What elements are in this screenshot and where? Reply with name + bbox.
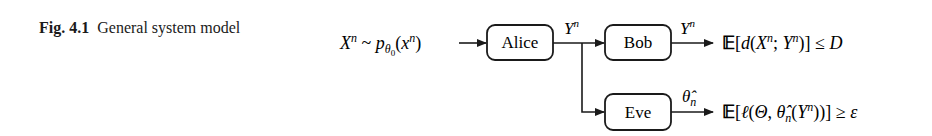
eve-node: Eve — [605, 94, 671, 130]
system-model-diagram: Xn ~ pθ0(xn) Alice Yn Bob Yn 𝔼[d(Xn; Yn)… — [0, 0, 932, 136]
eve-output-label: θ̂n — [682, 87, 697, 109]
bob-label: Bob — [624, 33, 652, 52]
input-distribution: Xn ~ pθ0(xn) — [339, 31, 421, 58]
eve-label: Eve — [625, 103, 651, 122]
svg-text:Xn ~ pθ0(xn): Xn ~ pθ0(xn) — [339, 31, 421, 58]
alice-to-eve-arrow — [582, 43, 604, 112]
alice-output-label: Yn — [564, 17, 579, 38]
alice-node: Alice — [487, 25, 553, 60]
bob-output-label: Yn — [680, 17, 695, 38]
distortion-constraint: 𝔼[d(Xn; Yn)] ≤ D — [722, 31, 842, 54]
alice-label: Alice — [502, 33, 539, 52]
privacy-constraint: 𝔼[ℓ(Θ, θ̂n(Yn))] ≥ ε — [722, 100, 858, 125]
bob-node: Bob — [605, 25, 671, 60]
